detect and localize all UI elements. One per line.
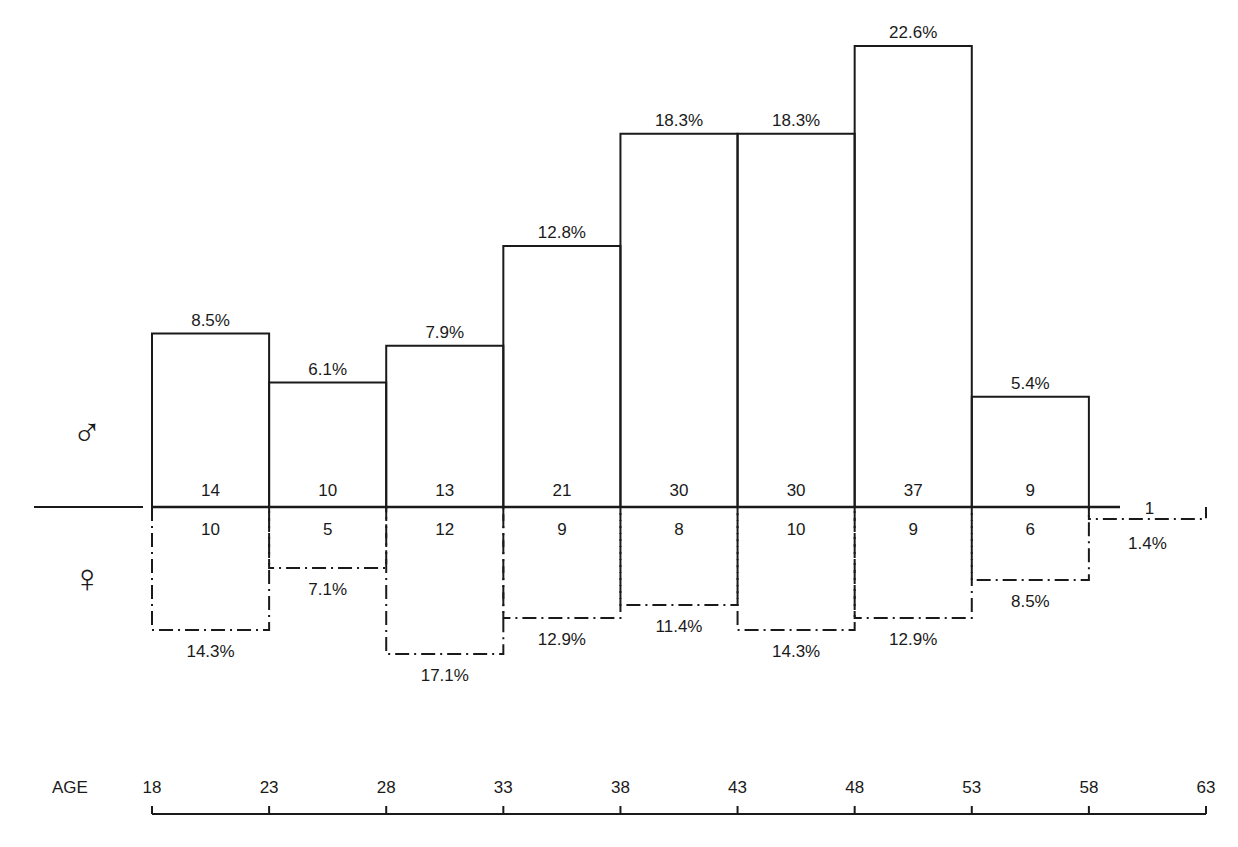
age-tick-label: 53 — [962, 778, 981, 797]
female-count-label: 8 — [674, 520, 683, 539]
male-percent-label: 18.3% — [655, 111, 703, 130]
female-percent-label: 8.5% — [1011, 592, 1050, 611]
age-tick-label: 33 — [494, 778, 513, 797]
female-count-label: 9 — [557, 520, 566, 539]
age-tick-label: 28 — [377, 778, 396, 797]
male-bar — [503, 246, 620, 507]
female-percent-label: 11.4% — [656, 617, 703, 636]
male-bar — [738, 134, 855, 507]
male-count-label: 30 — [787, 481, 806, 500]
age-axis: AGE 18232833384348535863 — [52, 778, 1215, 814]
male-symbol-icon: ♂ — [72, 410, 102, 454]
age-tick-label: 48 — [845, 778, 864, 797]
age-tick-label: 23 — [260, 778, 279, 797]
male-count-label: 10 — [318, 481, 337, 500]
age-tick-label: 63 — [1197, 778, 1216, 797]
male-count-label: 37 — [904, 481, 923, 500]
male-count-label: 9 — [1026, 481, 1035, 500]
female-percent-label: 1.4% — [1128, 534, 1167, 553]
male-bar — [855, 46, 972, 507]
age-distribution-chart: 8.5%146.1%107.9%1312.8%2118.3%3018.3%302… — [0, 0, 1238, 847]
male-percent-label: 5.4% — [1011, 374, 1050, 393]
male-percent-label: 12.8% — [538, 223, 586, 242]
bar-labels: 8.5%146.1%107.9%1312.8%2118.3%3018.3%302… — [186, 23, 1166, 685]
age-tick-label: 58 — [1079, 778, 1098, 797]
female-percent-label: 17.1% — [421, 666, 469, 685]
female-bar — [972, 507, 1089, 580]
female-count-label: 10 — [201, 520, 220, 539]
female-symbol-icon: ♀ — [72, 556, 102, 600]
female-percent-label: 12.9% — [538, 630, 586, 649]
male-percent-label: 8.5% — [191, 311, 230, 330]
age-axis-label: AGE — [52, 778, 88, 797]
female-count-label: 12 — [435, 520, 454, 539]
male-percent-label: 22.6% — [889, 23, 937, 42]
female-count-label: 5 — [323, 520, 332, 539]
age-tick-label: 43 — [728, 778, 747, 797]
male-count-label: 30 — [670, 481, 689, 500]
female-percent-label: 12.9% — [889, 630, 937, 649]
male-bar — [620, 134, 737, 507]
female-percent-label: 14.3% — [772, 642, 820, 661]
male-count-label: 13 — [435, 481, 454, 500]
female-percent-label: 7.1% — [308, 580, 347, 599]
female-count-label: 10 — [787, 520, 806, 539]
female-count-label: 9 — [908, 520, 917, 539]
male-percent-label: 7.9% — [425, 323, 464, 342]
male-count-label: 21 — [552, 481, 571, 500]
male-percent-label: 18.3% — [772, 111, 820, 130]
male-percent-label: 6.1% — [308, 360, 347, 379]
male-bars — [152, 46, 1089, 507]
age-tick-label: 38 — [611, 778, 630, 797]
age-tick-label: 18 — [143, 778, 162, 797]
male-count-label: 14 — [201, 481, 220, 500]
female-count-label: 1 — [1145, 499, 1154, 518]
female-count-label: 6 — [1026, 520, 1035, 539]
female-percent-label: 14.3% — [186, 642, 234, 661]
